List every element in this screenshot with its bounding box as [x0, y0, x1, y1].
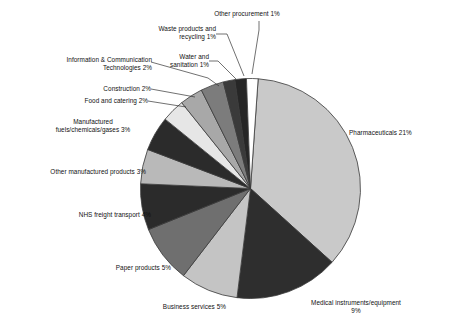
slice-label-nhs-freight-transport: NHS freight transport 4%: [41, 211, 151, 219]
leader-other-procurement: [252, 21, 259, 74]
pie-chart-figure: Other procurement 1% Waste products and …: [0, 0, 452, 334]
pie-slices-group: [140, 78, 360, 298]
slice-label-medical-instruments: Medical instruments/equipment 9%: [288, 299, 424, 315]
slice-label-other-manufactured-products: Other manufactured products 3%: [15, 168, 146, 176]
slice-label-waste-products: Waste products and recycling 1%: [126, 25, 216, 41]
leader-construction: [151, 89, 195, 97]
slice-label-other-procurement: Other procurement 1%: [187, 10, 307, 18]
slice-label-manufactured-fuels: Manufactured fuels/chemicals/gases 3%: [30, 118, 156, 134]
leader-waste-products: [216, 34, 244, 76]
leader-water-sanitation: [209, 61, 236, 79]
pie-chart-canvas: [0, 0, 452, 334]
slice-label-food-catering: Food and catering 2%: [48, 97, 148, 105]
slice-label-construction: Construction 2%: [61, 85, 151, 93]
slice-label-pharmaceuticals: Pharmaceuticals 21%: [349, 129, 452, 137]
slice-label-business-services: Business services 5%: [122, 303, 226, 311]
slice-label-paper-products: Paper products 5%: [75, 264, 171, 272]
slice-label-ict: Information & Communication Technologies…: [26, 56, 152, 72]
